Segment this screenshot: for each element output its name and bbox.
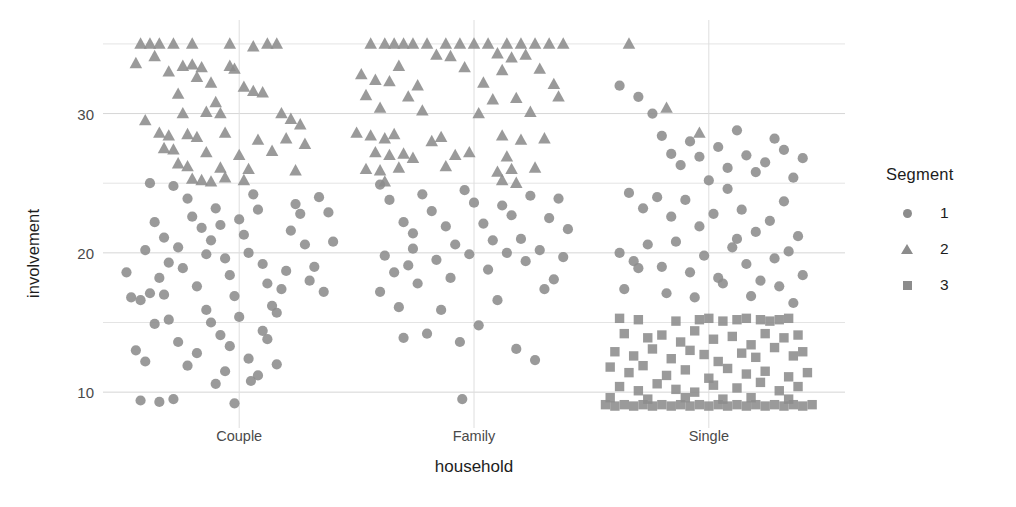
data-point-triangle <box>374 164 387 175</box>
data-point-circle <box>525 191 535 201</box>
data-point-square <box>760 329 769 338</box>
data-point-square <box>793 330 802 339</box>
data-point-triangle <box>491 47 504 58</box>
data-point-square <box>770 343 779 352</box>
data-point-square <box>704 401 713 410</box>
data-point-circle <box>281 266 291 276</box>
data-point-triangle <box>524 106 537 117</box>
x-axis-title: household <box>103 457 845 477</box>
data-point-square <box>732 400 741 409</box>
data-point-triangle <box>533 62 546 73</box>
data-point-circle <box>671 237 681 247</box>
data-point-circle <box>272 308 282 318</box>
data-point-triangle <box>397 147 410 158</box>
data-point-triangle <box>172 87 185 98</box>
data-point-triangle <box>496 64 509 75</box>
data-point-circle <box>718 278 728 288</box>
data-point-circle <box>145 288 155 298</box>
data-point-circle <box>295 209 305 219</box>
data-point-circle <box>394 302 404 312</box>
data-point-triangle <box>280 132 293 143</box>
legend-marker-square-icon <box>894 281 920 290</box>
data-point-circle <box>154 397 164 407</box>
data-point-triangle <box>444 50 457 61</box>
data-point-square <box>610 347 619 356</box>
data-point-triangle <box>252 133 265 144</box>
data-point-circle <box>319 287 329 297</box>
data-point-square <box>681 393 690 402</box>
legend-item-label: 1 <box>940 204 949 222</box>
data-point-triangle <box>195 174 208 185</box>
data-point-triangle <box>214 161 227 172</box>
data-point-circle <box>243 248 253 258</box>
legend-item[interactable]: 1 <box>886 198 1006 228</box>
data-point-circle <box>455 337 465 347</box>
data-point-triangle <box>350 126 363 137</box>
data-point-circle <box>769 134 779 144</box>
data-point-circle <box>774 281 784 291</box>
data-point-circle <box>300 239 310 249</box>
data-point-triangle <box>482 37 495 48</box>
data-point-square <box>643 333 652 342</box>
data-point-circle <box>159 290 169 300</box>
data-point-triangle <box>623 37 636 48</box>
data-point-circle <box>126 292 136 302</box>
data-point-square <box>742 401 751 410</box>
data-point-circle <box>380 251 390 261</box>
data-point-triangle <box>360 89 373 100</box>
data-point-circle <box>511 344 521 354</box>
data-point-circle <box>450 239 460 249</box>
data-point-triangle <box>233 149 246 160</box>
data-point-circle <box>408 228 418 238</box>
data-point-circle <box>398 333 408 343</box>
legend-item[interactable]: 2 <box>886 234 1006 264</box>
data-point-triangle <box>519 48 532 59</box>
data-point-square <box>732 315 741 324</box>
data-point-circle <box>375 287 385 297</box>
data-point-circle <box>694 221 704 231</box>
data-point-square <box>756 378 765 387</box>
data-point-circle <box>159 232 169 242</box>
data-point-triangle <box>266 145 279 156</box>
data-point-square <box>643 394 652 403</box>
data-point-triangle <box>214 107 227 118</box>
data-point-triangle <box>430 48 443 59</box>
data-point-square <box>732 383 741 392</box>
data-point-triangle <box>458 61 471 72</box>
data-point-circle <box>234 214 244 224</box>
x-axis-tick-label: Single <box>689 428 729 444</box>
data-point-circle <box>427 206 437 216</box>
data-point-circle <box>798 153 808 163</box>
data-point-circle <box>309 262 319 272</box>
data-point-triangle <box>369 146 382 157</box>
data-point-triangle <box>162 65 175 76</box>
data-point-circle <box>168 394 178 404</box>
data-point-circle <box>704 175 714 185</box>
data-point-circle <box>220 253 230 263</box>
data-point-circle <box>478 219 488 229</box>
data-point-triangle <box>510 92 523 103</box>
data-point-circle <box>563 224 573 234</box>
data-point-circle <box>258 326 268 336</box>
data-point-circle <box>737 205 747 215</box>
data-point-circle <box>638 203 648 213</box>
data-point-circle <box>215 220 225 230</box>
data-point-square <box>803 368 812 377</box>
data-point-square <box>685 346 694 355</box>
data-point-circle <box>272 359 282 369</box>
legend-item[interactable]: 3 <box>886 270 1006 300</box>
data-point-triangle <box>496 129 509 140</box>
data-point-square <box>638 361 647 370</box>
data-point-circle <box>685 267 695 277</box>
data-point-triangle <box>209 96 222 107</box>
data-point-circle <box>211 379 221 389</box>
data-point-circle <box>150 217 160 227</box>
data-point-triangle <box>364 37 377 48</box>
data-point-triangle <box>364 129 377 140</box>
data-point-square <box>648 344 657 353</box>
data-point-circle <box>769 253 779 263</box>
data-point-triangle <box>411 79 424 90</box>
data-point-triangle <box>515 37 528 48</box>
data-point-circle <box>657 262 667 272</box>
data-point-circle <box>779 145 789 155</box>
